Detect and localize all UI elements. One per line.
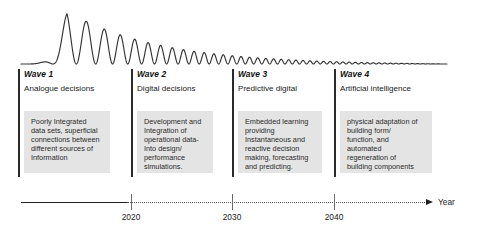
wave-column-rule [131, 69, 133, 177]
wave-column-rule [334, 69, 336, 177]
wave-heading: Wave 4 [340, 69, 369, 79]
wave-subtitle: Predictive digital [238, 84, 297, 94]
wave-description-box: Embedded learning providing Instantaneou… [238, 111, 322, 173]
four-waves-figure: Wave 1 Analogue decisions Poorly Integra… [0, 0, 483, 232]
wave-description-box: Development and Integration of operation… [137, 111, 213, 173]
wave-column-rule [18, 69, 20, 177]
wave-heading: Wave 1 [24, 69, 53, 79]
axis-tick-2020 [131, 194, 132, 210]
axis-tick-2030 [232, 194, 233, 210]
wave-subtitle: Analogue decisions [24, 84, 94, 94]
axis-tick-label-2040: 2040 [325, 212, 344, 222]
wave-heading: Wave 3 [238, 69, 267, 79]
axis-label-year: Year [438, 197, 455, 207]
axis-dotted-segment [127, 202, 427, 203]
damped-wave-curve [0, 0, 483, 70]
axis-tick-label-2020: 2020 [122, 212, 141, 222]
wave-path [21, 14, 447, 64]
timeline-axis: Year 2020 2030 2040 [0, 185, 483, 232]
wave-subtitle: Artificial intelligence [340, 84, 411, 94]
wave-heading: Wave 2 [137, 69, 166, 79]
wave-description-text: physical adaptation of building form/ fu… [347, 118, 426, 171]
wave-column-rule [232, 69, 234, 177]
axis-tick-label-2030: 2030 [223, 212, 242, 222]
axis-arrow-icon [426, 199, 433, 205]
axis-tick-2040 [334, 194, 335, 210]
wave-description-text: Embedded learning providing Instantaneou… [245, 118, 316, 171]
wave-description-text: Poorly Integrated data sets, superficial… [31, 118, 104, 163]
wave-description-box: physical adaptation of building form/ fu… [340, 111, 432, 173]
axis-solid-segment [21, 202, 127, 203]
wave-description-box: Poorly Integrated data sets, superficial… [24, 111, 110, 173]
wave-description-text: Development and Integration of operation… [144, 118, 207, 171]
wave-subtitle: Digital decisions [137, 84, 195, 94]
